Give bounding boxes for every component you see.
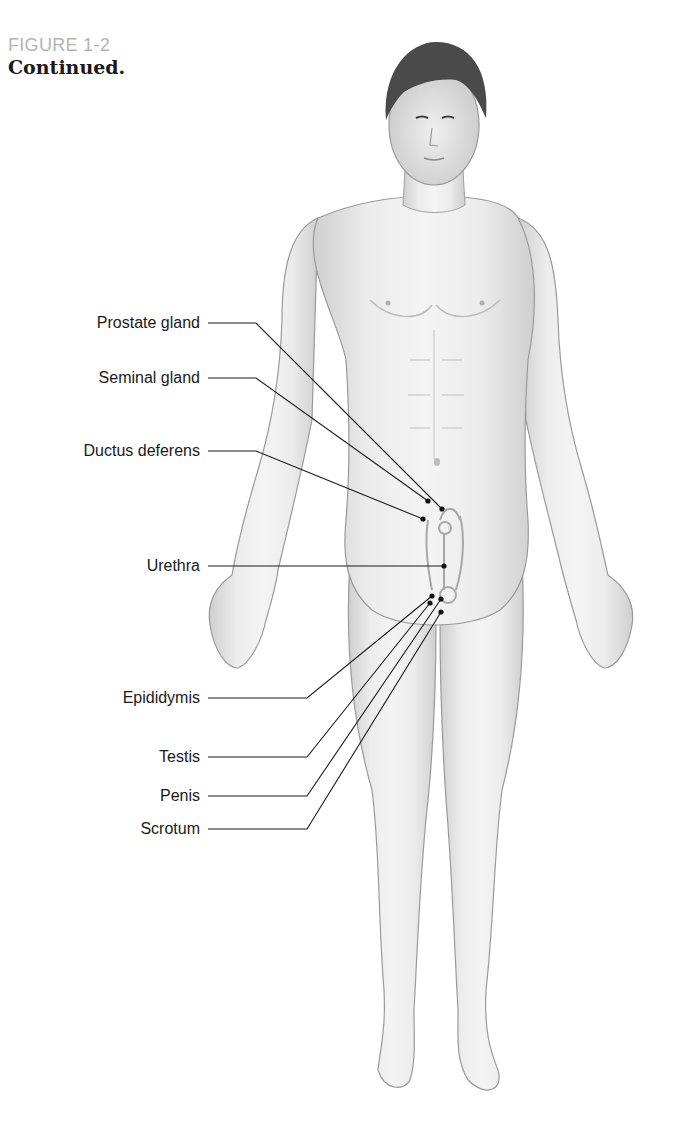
torso <box>313 196 534 625</box>
right-leg <box>440 560 523 1090</box>
label-scrotum: Scrotum <box>0 820 200 838</box>
label-prostate-gland: Prostate gland <box>0 314 200 332</box>
left-arm <box>209 218 318 668</box>
right-arm <box>518 218 633 668</box>
label-testis: Testis <box>0 748 200 766</box>
left-leg <box>348 560 436 1087</box>
label-urethra: Urethra <box>0 557 200 575</box>
label-penis: Penis <box>0 787 200 805</box>
label-ductus-deferens: Ductus deferens <box>0 442 200 460</box>
label-epididymis: Epididymis <box>0 689 200 707</box>
label-seminal-gland: Seminal gland <box>0 369 200 387</box>
